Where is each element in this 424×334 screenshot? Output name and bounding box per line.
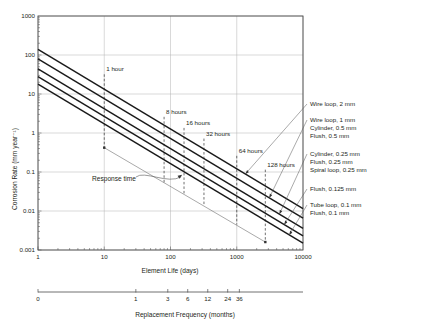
series-label: Flush, 0.125 mm <box>310 186 356 192</box>
series-label: Tube loop, 0.1 mm <box>310 202 361 208</box>
hour-annotation-label: 128 hours <box>267 162 295 168</box>
series-label: Cylinder, 0.25 mm <box>310 151 360 157</box>
y-axis-tick-label: 0.001 <box>2 247 35 253</box>
y-axis-tick-label: 0.1 <box>2 169 35 175</box>
x-axis-tick-label: 10000 <box>287 254 319 260</box>
y-axis-tick-label: 10 <box>2 91 35 97</box>
figure-corrosion-rate-vs-element-life: Corrosion Rate (mm year⁻¹) Element Life … <box>0 0 424 334</box>
y-axis-tick-label: 1000 <box>2 13 35 19</box>
series-label: Wire loop, 2 mm <box>310 101 355 107</box>
secondary-axis-tick-label: 1 <box>126 296 146 302</box>
series-label: Flush, 0.1 mm <box>310 210 349 216</box>
secondary-axis-tick-label: 12 <box>198 296 218 302</box>
series-label: Spiral loop, 0.25 mm <box>310 167 367 173</box>
x-axis-tick-label: 1 <box>22 254 54 260</box>
hour-annotation-label: 64 hours <box>239 148 263 154</box>
y-axis-tick-label: 100 <box>2 52 35 58</box>
hour-annotation-label: 32 hours <box>206 131 230 137</box>
series-label: Cylinder, 0.5 mm <box>310 125 356 131</box>
hour-annotation-label: 8 hours <box>166 109 187 115</box>
response-time-annotation: Response time <box>92 176 136 183</box>
secondary-axis-tick-label: 0 <box>28 296 48 302</box>
secondary-axis-tick-label: 36 <box>229 296 249 302</box>
x-axis-tick-label: 1000 <box>221 254 253 260</box>
series-label: Wire loop, 1 mm <box>310 117 355 123</box>
secondary-axis-title: Replacement Frequency (months) <box>105 312 265 319</box>
y-axis-tick-label: 0.01 <box>2 208 35 214</box>
hour-annotation-label: 1 hour <box>106 66 124 72</box>
x-axis-tick-label: 10 <box>88 254 120 260</box>
hour-annotation-label: 16 hours <box>186 120 210 126</box>
secondary-axis-tick-label: 3 <box>158 296 178 302</box>
series-label: Flush, 0.5 mm <box>310 133 349 139</box>
series-label: Flush, 0.25 mm <box>310 159 353 165</box>
secondary-axis-tick-label: 6 <box>178 296 198 302</box>
x-axis-title: Element Life (days) <box>120 268 220 275</box>
y-axis-tick-label: 1 <box>2 130 35 136</box>
x-axis-tick-label: 100 <box>155 254 187 260</box>
